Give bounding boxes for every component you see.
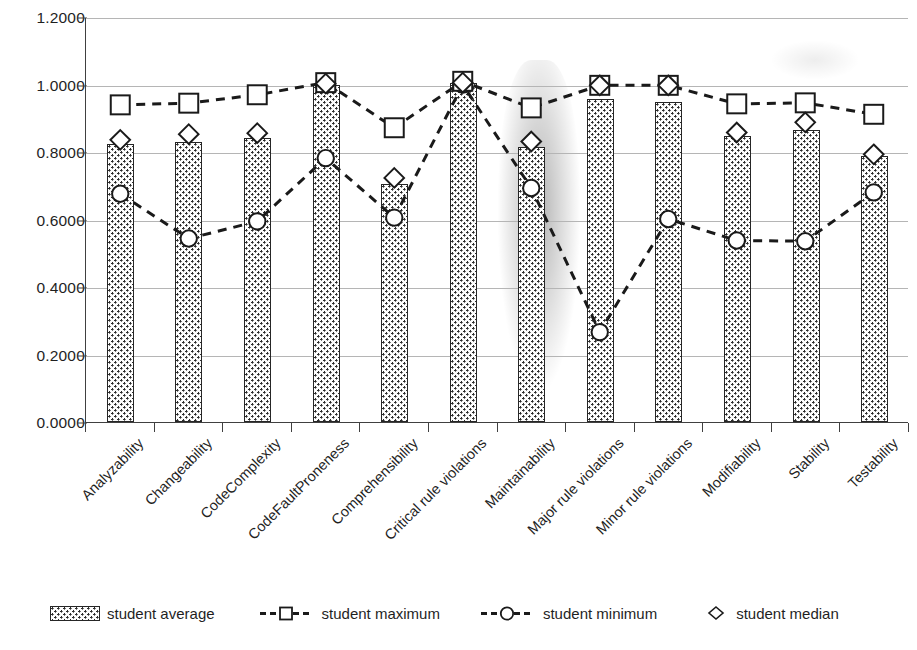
x-tick-mark xyxy=(222,423,223,432)
x-tick-mark xyxy=(359,423,360,432)
legend-item: student average xyxy=(50,605,215,622)
x-tick-label: Changeability xyxy=(142,435,215,508)
diamond-icon xyxy=(703,604,729,622)
legend-label: student median xyxy=(736,605,839,622)
legend-item: student maximum xyxy=(259,604,440,622)
x-tick-mark xyxy=(771,423,772,432)
chart-legend: student averagestudent maximumstudent mi… xyxy=(50,599,880,627)
x-tick-mark xyxy=(85,423,86,432)
legend-swatch-pattern xyxy=(50,606,100,621)
x-tick-mark xyxy=(839,423,840,432)
legend-label: student maximum xyxy=(322,605,440,622)
chart-container: 0.00000.20000.40000.60000.80001.00001.20… xyxy=(0,0,917,650)
x-tick-label: Maintainability xyxy=(482,435,558,511)
x-tick-label: Modifiability xyxy=(699,435,764,500)
x-tick-mark xyxy=(154,423,155,432)
legend-swatch-dashed-circle xyxy=(480,604,536,622)
x-tick-mark xyxy=(565,423,566,432)
x-tick-label: Testability xyxy=(845,435,901,491)
legend-item: student median xyxy=(703,604,839,622)
x-tick-label: Analyzability xyxy=(78,435,146,503)
x-tick-mark xyxy=(497,423,498,432)
x-tick-mark xyxy=(634,423,635,432)
x-tick-mark xyxy=(428,423,429,432)
legend-label: student average xyxy=(107,605,215,622)
x-axis: AnalyzabilityChangeabilityCodeComplexity… xyxy=(0,0,917,650)
square-icon xyxy=(280,608,292,620)
legend-swatch-diamond xyxy=(703,604,729,622)
legend-item: student minimum xyxy=(480,604,657,622)
circle-icon xyxy=(501,607,513,619)
x-tick-mark xyxy=(702,423,703,432)
x-tick-label: Stability xyxy=(785,435,832,482)
legend-label: student minimum xyxy=(543,605,657,622)
x-tick-mark xyxy=(908,423,909,432)
x-tick-mark xyxy=(291,423,292,432)
legend-swatch-dashed-square xyxy=(259,604,315,622)
